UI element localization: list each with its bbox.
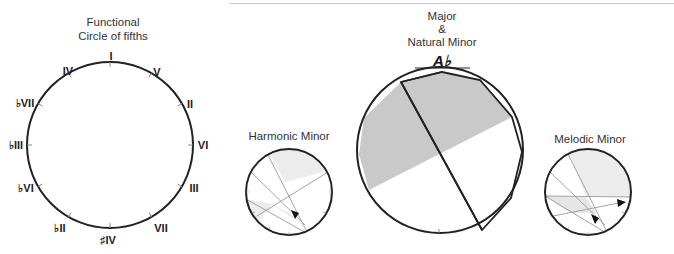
melodic-arrow-head-right (617, 199, 626, 207)
melodic-minor-diagram: Melodic Minor (545, 133, 632, 235)
functional-title-line1: Functional (86, 16, 139, 28)
major-natural-minor-diagram: Major & Natural Minor A♭ (357, 10, 523, 233)
harmonic-minor-title: Harmonic Minor (248, 130, 329, 142)
degree-label-VI: VI (198, 139, 208, 151)
degree-label-III: III (189, 182, 198, 194)
degree-label-flat-II: ♭II (54, 222, 65, 234)
melodic-minor-title: Melodic Minor (554, 133, 626, 145)
harmonic-minor-diagram: Harmonic Minor (246, 130, 332, 235)
functional-circle-diagram: Functional Circle of fifths I V II VI II… (9, 16, 208, 246)
functional-title-line2: Circle of fifths (78, 30, 148, 42)
major-title-line1: Major (428, 10, 457, 22)
degree-label-IV: IV (63, 65, 74, 77)
degree-label-flat-III: ♭III (9, 139, 23, 151)
degree-label-flat-VII: ♭VII (16, 97, 34, 109)
major-title-line3: Natural Minor (407, 36, 476, 48)
degree-label-II: II (187, 98, 193, 110)
degree-label-flat-VI: ♭VI (18, 182, 33, 194)
melodic-shade-wedge (545, 196, 596, 213)
degree-label-sharp-IV: ♯IV (100, 234, 117, 246)
major-title-line2: & (438, 23, 446, 35)
circle-of-fifths-ring (27, 62, 193, 228)
degree-label-V: V (153, 66, 161, 78)
degree-label-I: I (109, 50, 112, 62)
degree-label-VII: VII (154, 222, 167, 234)
